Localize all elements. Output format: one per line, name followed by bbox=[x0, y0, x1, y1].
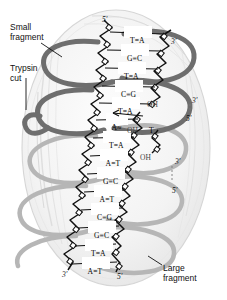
base-pair-14: A=T bbox=[84, 258, 102, 276]
free-nucleotide-label: T bbox=[149, 126, 154, 135]
base-pair-7: T=A bbox=[105, 132, 124, 150]
base-pair-12: G≡C bbox=[90, 222, 109, 240]
base-pair-4: C≡G bbox=[117, 81, 136, 99]
annotation-large-fragment: Large fragment bbox=[163, 263, 197, 283]
base-pair-13: T=A bbox=[87, 240, 106, 258]
annotation-trypsin-cut: Trypsin cut bbox=[10, 63, 38, 83]
base-pair-8: A=T bbox=[102, 150, 120, 168]
prime-label-top-right-3: 3' bbox=[171, 37, 176, 46]
prime-label-small-fragment-3: 3' bbox=[192, 96, 197, 105]
prime-label-bottom-right-5: 5' bbox=[117, 272, 122, 281]
hydroxyl-label-middle: OH bbox=[127, 126, 138, 135]
prime-label-bottom-left-3: 3' bbox=[62, 270, 67, 279]
annotation-small-fragment: Small fragment bbox=[10, 22, 44, 42]
hydroxyl-label-lower: OH bbox=[140, 153, 151, 162]
base-pair-9: G≡C bbox=[99, 168, 118, 186]
figure-canvas: Small fragment Trypsin cut Large fragmen… bbox=[0, 0, 227, 300]
prime-label-large-fragment-3: 3' bbox=[175, 157, 180, 166]
hydroxyl-label-top: OH bbox=[147, 100, 158, 109]
base-pair-10: A=T bbox=[96, 186, 114, 204]
base-pair-2: G≡C bbox=[123, 45, 142, 63]
base-pair-3: T=A bbox=[120, 63, 139, 81]
prime-label-large-fragment-5: 5' bbox=[172, 186, 177, 195]
base-pair-1: T=A bbox=[126, 27, 145, 45]
base-pair-11: C≡G bbox=[93, 204, 112, 222]
prime-label-small-fragment-5: 5' bbox=[186, 114, 191, 123]
prime-label-top-left-5: 5' bbox=[102, 15, 107, 24]
base-pair-6-broken: A≈ bbox=[108, 114, 121, 132]
